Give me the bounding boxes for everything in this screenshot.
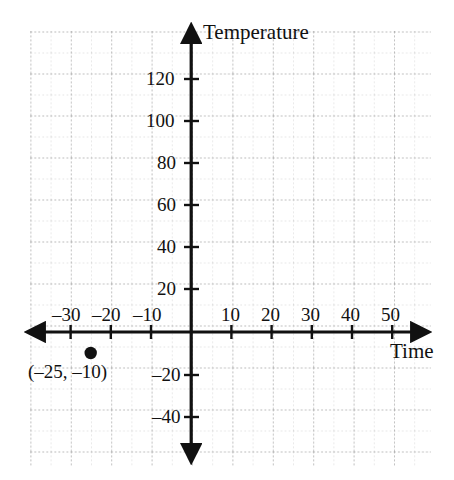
- y-tick-label-100: 100: [146, 111, 175, 130]
- x-tick-label-30: 30: [301, 305, 320, 324]
- x-tick-label-neg30: –30: [52, 305, 81, 324]
- plot-area: [0, 0, 454, 480]
- x-tick-label-neg10: –10: [133, 305, 162, 324]
- y-tick-label-80: 80: [157, 153, 176, 172]
- coordinate-plane-chart: Temperature Time 120 100 80 60 40 20 –20…: [0, 0, 454, 480]
- y-tick-label-120: 120: [146, 69, 175, 88]
- x-axis-title: Time: [390, 341, 434, 362]
- x-tick-label-neg20: –20: [92, 305, 121, 324]
- y-tick-label-20: 20: [157, 279, 176, 298]
- y-tick-label-60: 60: [157, 195, 176, 214]
- y-tick-label-neg20: –20: [152, 365, 181, 384]
- data-point-marker: [85, 347, 97, 359]
- data-point-annotation: (–25, –10): [28, 362, 107, 381]
- y-tick-label-neg40: –40: [152, 407, 181, 426]
- x-tick-label-10: 10: [221, 305, 240, 324]
- grid-major: [30, 31, 431, 466]
- x-tick-label-20: 20: [261, 305, 280, 324]
- y-tick-label-40: 40: [157, 237, 176, 256]
- x-tick-label-40: 40: [341, 305, 360, 324]
- y-axis-title: Temperature: [203, 22, 309, 43]
- x-tick-label-50: 50: [381, 305, 400, 324]
